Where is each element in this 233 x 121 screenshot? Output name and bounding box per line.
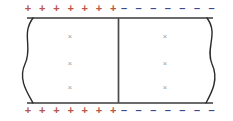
field-cross-icon: × bbox=[68, 83, 72, 92]
positive-charge-glyph: + bbox=[110, 2, 116, 14]
negative-charge-glyph: – bbox=[179, 104, 185, 116]
capacitor-figure: +++++++–––––––+++++++––––––– ×××××× bbox=[0, 0, 233, 121]
positive-charge-glyph: + bbox=[67, 2, 73, 14]
negative-charge-glyph: – bbox=[179, 2, 185, 14]
positive-charge-glyph: + bbox=[53, 104, 59, 116]
positive-charge-glyph: + bbox=[39, 104, 45, 116]
positive-charge-glyph: + bbox=[82, 2, 88, 14]
field-cross-icon: × bbox=[163, 59, 167, 68]
field-cross-icon: × bbox=[163, 32, 167, 41]
field-cross-icon: × bbox=[68, 32, 72, 41]
field-cross-icon: × bbox=[163, 83, 167, 92]
negative-charge-glyph: – bbox=[150, 2, 156, 14]
positive-charge-glyph: + bbox=[67, 104, 73, 116]
negative-charge-glyph: – bbox=[209, 104, 215, 116]
field-cross-icon: × bbox=[68, 59, 72, 68]
positive-charge-glyph: + bbox=[25, 104, 31, 116]
negative-charge-glyph: – bbox=[194, 104, 200, 116]
negative-charge-glyph: – bbox=[121, 104, 127, 116]
positive-charge-glyph: + bbox=[96, 2, 102, 14]
negative-charge-glyph: – bbox=[136, 2, 142, 14]
negative-charge-glyph: – bbox=[165, 2, 171, 14]
capacitor-diagram-svg: +++++++–––––––+++++++––––––– ×××××× bbox=[0, 0, 233, 121]
positive-charge-glyph: + bbox=[39, 2, 45, 14]
positive-charge-glyph: + bbox=[53, 2, 59, 14]
negative-charge-glyph: – bbox=[194, 2, 200, 14]
negative-charge-glyph: – bbox=[136, 104, 142, 116]
positive-charge-glyph: + bbox=[82, 104, 88, 116]
positive-charge-glyph: + bbox=[25, 2, 31, 14]
negative-charge-glyph: – bbox=[121, 2, 127, 14]
positive-charge-glyph: + bbox=[96, 104, 102, 116]
negative-charge-glyph: – bbox=[165, 104, 171, 116]
positive-charge-glyph: + bbox=[110, 104, 116, 116]
negative-charge-glyph: – bbox=[209, 2, 215, 14]
negative-charge-glyph: – bbox=[150, 104, 156, 116]
